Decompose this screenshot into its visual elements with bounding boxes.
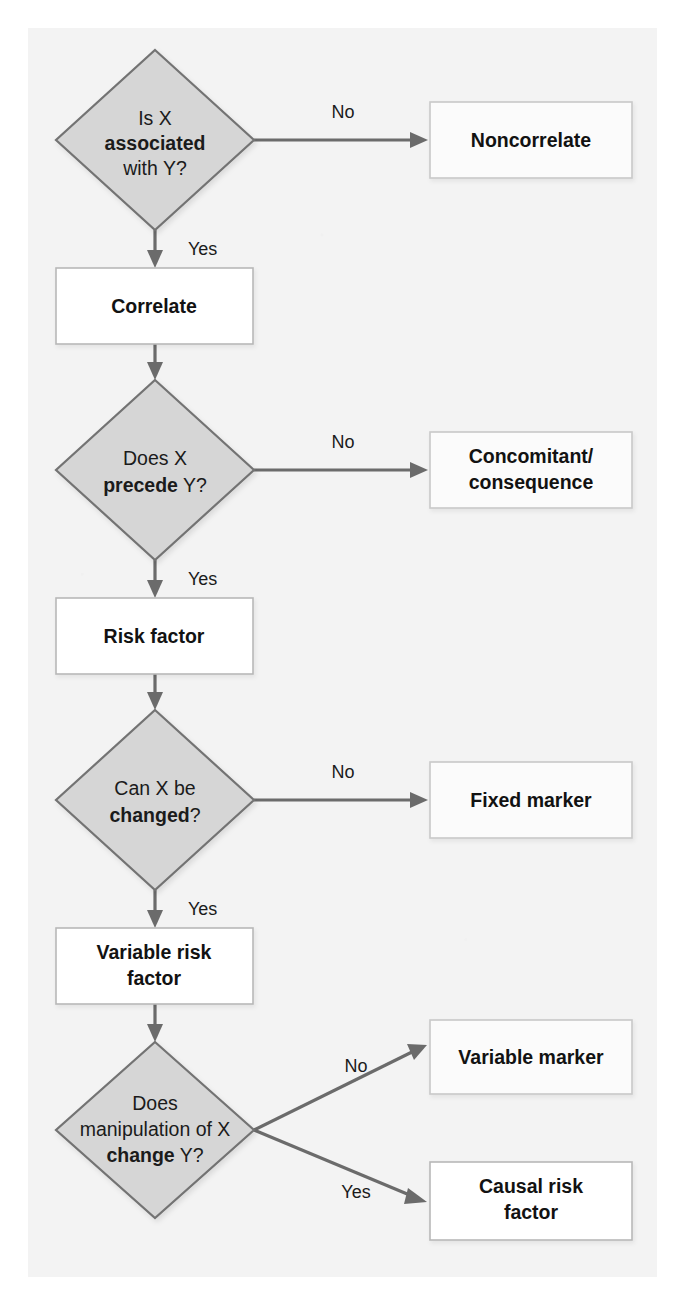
outcome-box-causal-risk-factor[interactable]: Causal risk factor xyxy=(430,1162,632,1240)
decision-label-d1-line1: Is X xyxy=(138,107,172,129)
process-label-variable-risk-line1: Variable risk xyxy=(97,941,212,963)
edge-label-yes-2: Yes xyxy=(188,569,217,589)
decision-label-d1-line3: with Y? xyxy=(122,157,187,179)
outcome-label-concomitant-line2: consequence xyxy=(469,471,594,493)
outcome-label-causal-line2: factor xyxy=(504,1201,559,1223)
decision-d2-bold-word: precede xyxy=(103,474,178,496)
decision-label-d3-line2: changed? xyxy=(109,804,200,826)
edge-label-no-3: No xyxy=(331,762,354,782)
outcome-label-fixed-marker: Fixed marker xyxy=(470,789,592,811)
decision-label-d4-line2: manipulation of X xyxy=(80,1118,231,1140)
process-label-variable-risk-line2: factor xyxy=(127,967,182,989)
process-box-variable-risk-factor[interactable]: Variable risk factor xyxy=(56,928,253,1004)
flowchart-figure: No Yes No Yes xyxy=(0,0,685,1305)
decision-d3-bold-word: changed xyxy=(109,804,189,826)
process-box-risk-factor[interactable]: Risk factor xyxy=(56,598,253,674)
edge-label-yes-4: Yes xyxy=(341,1182,370,1202)
decision-label-d2-line1: Does X xyxy=(123,447,187,469)
edge-label-yes-3: Yes xyxy=(188,899,217,919)
decision-d4-bold-word: change xyxy=(106,1144,174,1166)
outcome-box-noncorrelate[interactable]: Noncorrelate xyxy=(430,102,632,178)
outcome-box-fixed-marker[interactable]: Fixed marker xyxy=(430,762,632,838)
decision-label-d1-line2: associated xyxy=(105,132,206,154)
decision-d2-rest: Y? xyxy=(178,474,207,496)
decision-label-d2-line2: precede Y? xyxy=(103,474,207,496)
decision-label-d3-line1: Can X be xyxy=(114,777,195,799)
process-label-risk-factor: Risk factor xyxy=(104,625,205,647)
outcome-box-variable-marker[interactable]: Variable marker xyxy=(430,1020,632,1094)
decision-d3-rest: ? xyxy=(190,804,201,826)
edge-label-yes-1: Yes xyxy=(188,239,217,259)
outcome-label-variable-marker: Variable marker xyxy=(458,1046,604,1068)
edge-label-no-2: No xyxy=(331,432,354,452)
outcome-label-causal-line1: Causal risk xyxy=(479,1175,583,1197)
decision-label-d4-line1: Does xyxy=(132,1092,178,1114)
decision-label-d4-line3: change Y? xyxy=(106,1144,203,1166)
process-box-correlate[interactable]: Correlate xyxy=(56,268,253,344)
process-label-correlate: Correlate xyxy=(111,295,197,317)
outcome-label-concomitant-line1: Concomitant/ xyxy=(469,445,594,467)
edge-label-no-1: No xyxy=(331,102,354,122)
decision-d4-rest: Y? xyxy=(175,1144,204,1166)
outcome-box-concomitant-consequence[interactable]: Concomitant/ consequence xyxy=(430,432,632,508)
outcome-label-noncorrelate: Noncorrelate xyxy=(471,129,591,151)
edge-label-no-4: No xyxy=(344,1056,367,1076)
flowchart-canvas: No Yes No Yes xyxy=(0,0,685,1305)
